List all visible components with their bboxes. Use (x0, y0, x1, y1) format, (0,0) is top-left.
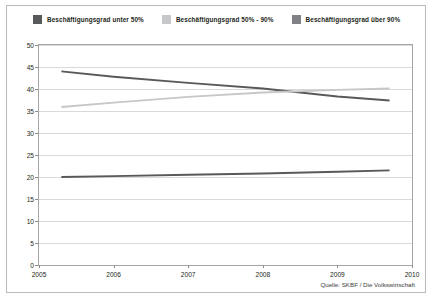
y-tick-label: 15 (14, 196, 34, 203)
y-tick-label: 35 (14, 108, 34, 115)
y-tick-mark (35, 177, 38, 178)
y-tick-mark (35, 45, 38, 46)
series-line-1 (61, 89, 389, 107)
y-tick-mark (35, 111, 38, 112)
x-tick-mark (188, 265, 189, 268)
legend-label-50-90: Beschäftigungsgrad 50% - 90% (176, 15, 274, 24)
legend-label-ueber-90: Beschäftigungsgrad über 90% (306, 15, 401, 24)
y-tick-label: 0 (14, 262, 34, 269)
y-tick-label: 30 (14, 130, 34, 137)
x-tick-mark (39, 265, 40, 268)
y-tick-label: 10 (14, 218, 34, 225)
legend-swatch-unter-50-icon (33, 15, 42, 24)
source-note: Quelle: SKBF / Die Volkswirtschaft (320, 281, 415, 288)
legend-item-50-90: Beschäftigungsgrad 50% - 90% (162, 15, 274, 24)
y-tick-label: 45 (14, 64, 34, 71)
plot-inner (39, 45, 412, 265)
series-line-0 (61, 71, 389, 100)
y-tick-mark (35, 155, 38, 156)
x-tick-label: 2008 (255, 271, 270, 279)
legend-item-unter-50: Beschäftigungsgrad unter 50% (33, 15, 144, 24)
legend-item-ueber-90: Beschäftigungsgrad über 90% (292, 15, 401, 24)
y-tick-mark (35, 265, 38, 266)
x-tick-mark (412, 265, 413, 268)
x-tick-label: 2009 (330, 271, 345, 279)
y-tick-mark (35, 67, 38, 68)
y-tick-mark (35, 243, 38, 244)
x-tick-mark (263, 265, 264, 268)
x-tick-label: 2010 (405, 271, 420, 279)
legend-swatch-50-90-icon (162, 15, 171, 24)
y-tick-mark (35, 89, 38, 90)
y-tick-label: 50 (14, 42, 34, 49)
x-tick-label: 2006 (106, 271, 121, 279)
y-tick-mark (35, 133, 38, 134)
x-tick-mark (337, 265, 338, 268)
series-layer (39, 45, 412, 265)
y-tick-label: 5 (14, 240, 34, 247)
legend-swatch-ueber-90-icon (292, 15, 301, 24)
x-tick-mark (114, 265, 115, 268)
y-tick-label: 20 (14, 174, 34, 181)
y-tick-label: 40 (14, 86, 34, 93)
y-tick-mark (35, 221, 38, 222)
x-tick-label: 2005 (32, 271, 47, 279)
series-line-2 (61, 170, 389, 177)
x-tick-label: 2007 (181, 271, 196, 279)
y-tick-mark (35, 199, 38, 200)
chart-figure: Beschäftigungsgrad unter 50% Beschäftigu… (0, 0, 433, 302)
y-tick-label: 25 (14, 152, 34, 159)
plot-area (38, 44, 413, 266)
chart-legend: Beschäftigungsgrad unter 50% Beschäftigu… (33, 15, 400, 24)
legend-label-unter-50: Beschäftigungsgrad unter 50% (47, 15, 144, 24)
